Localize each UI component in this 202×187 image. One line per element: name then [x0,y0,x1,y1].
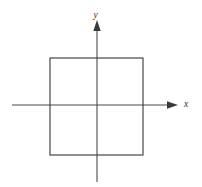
x-axis-arrowhead-icon [167,101,178,109]
y-axis-label: y [93,10,99,20]
figure-canvas: x y [0,0,202,187]
coordinate-plane-figure: x y [0,0,202,187]
x-axis-label: x [183,99,189,109]
y-axis-arrowhead-icon [93,20,100,31]
